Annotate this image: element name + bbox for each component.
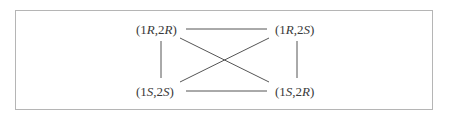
diagram-edges	[0, 0, 449, 115]
node-1R-2R: (1R,2R)	[136, 22, 177, 37]
node-1R-2S: (1R,2S)	[275, 22, 314, 37]
node-1S-2S: (1S,2S)	[136, 84, 174, 99]
node-1S-2R: (1S,2R)	[275, 84, 314, 99]
